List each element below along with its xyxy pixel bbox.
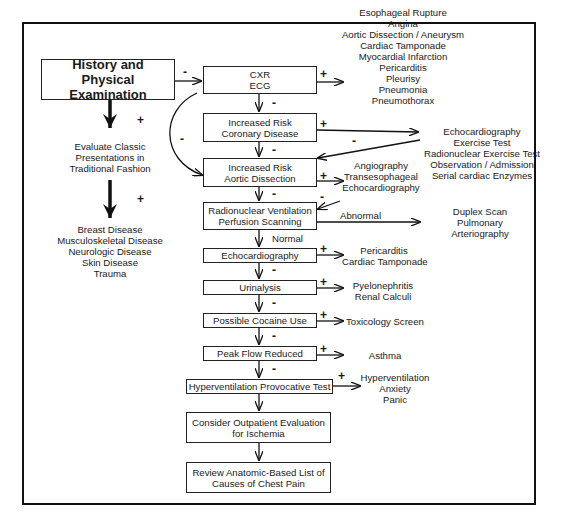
cocaine-outcomes: Toxicology Screen	[346, 316, 420, 327]
plus-sign-echo: +	[320, 243, 327, 255]
minus-sign-3: -	[272, 188, 276, 200]
aortic-outcomes: Angiography Transesophageal Echocardiogr…	[342, 160, 420, 193]
start-line2: Physical Examination	[42, 72, 174, 102]
minus-sign-curve: -	[180, 133, 184, 145]
echocardiography-box: Echocardiography	[203, 248, 317, 263]
peak-flow-box: Peak Flow Reduced	[203, 346, 317, 361]
plus-sign-aortic: +	[320, 170, 327, 182]
urinalysis-box: Urinalysis	[203, 280, 317, 295]
minus-sign-7: -	[272, 363, 276, 375]
plus-sign-urinalysis: +	[320, 276, 327, 288]
minus-sign-2: -	[272, 144, 276, 156]
cocaine-box: Possible Cocaine Use	[203, 313, 317, 328]
abnormal-label: Abnormal	[340, 210, 381, 221]
other-conditions-list: Breast Disease Musculoskeletal Disease N…	[50, 224, 170, 279]
hypervent-outcomes: Hyperventilation Anxiety Panic	[355, 372, 435, 405]
radionuclear-outcomes: Duplex Scan Pulmonary Arteriography	[440, 206, 520, 239]
cxr-outcomes: Esophageal Rupture Angina Aortic Dissect…	[336, 7, 470, 106]
minus-sign-1: -	[272, 97, 276, 109]
aortic-risk-box: Increased RiskAortic Dissection	[203, 158, 317, 187]
minus-sign-hp: -	[183, 66, 187, 78]
plus-sign-left-2: +	[137, 193, 144, 205]
coronary-outcomes: Echocardiography Exercise Test Radionucl…	[418, 126, 546, 181]
outpatient-eval-box: Consider Outpatient Evaluationfor Ischem…	[186, 412, 331, 443]
minus-sign-6: -	[272, 330, 276, 342]
plus-sign-left-1: +	[137, 114, 144, 126]
echo-outcomes: Pericarditis Cardiac Tamponade	[342, 245, 426, 267]
review-anatomic-box: Review Anatomic-Based List ofCauses of C…	[186, 462, 331, 493]
plus-sign-hypervent: +	[338, 370, 345, 382]
minus-sign-radionuclear-back: -	[320, 191, 324, 203]
cxr-ecg-box: CXRECG	[203, 66, 317, 94]
plus-sign-cxr: +	[320, 68, 327, 80]
start-line1: History and	[72, 57, 144, 72]
plus-sign-cocaine: +	[320, 309, 327, 321]
peakflow-outcomes: Asthma	[360, 350, 410, 361]
minus-sign-4: -	[272, 264, 276, 276]
minus-sign-5: -	[272, 297, 276, 309]
plus-sign-peakflow: +	[320, 343, 327, 355]
urinalysis-outcomes: Pyelonephritis Renal Calculi	[348, 280, 418, 302]
classic-presentation-text: Evaluate Classic Presentations in Tradit…	[60, 141, 160, 174]
radionuclear-box: Radionuclear VentilationPerfusion Scanni…	[203, 202, 317, 230]
plus-sign-coronary: +	[320, 118, 327, 130]
minus-sign-coronary-back: -	[352, 135, 356, 147]
hyperventilation-test-box: Hyperventilation Provocative Test	[186, 379, 333, 394]
coronary-risk-box: Increased RiskCoronary Disease	[203, 113, 317, 142]
history-physical-box: History and Physical Examination	[41, 59, 175, 100]
normal-label: Normal	[272, 233, 303, 244]
